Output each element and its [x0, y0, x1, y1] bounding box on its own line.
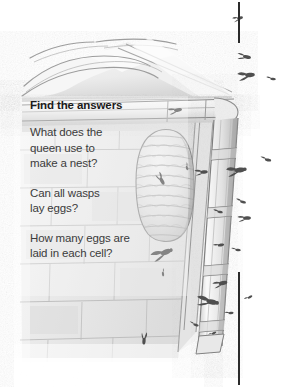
- question-2-line-2: lay eggs?: [30, 201, 180, 217]
- question-3-line-1: How many eggs are: [30, 231, 182, 247]
- top-margin-rule: [238, 2, 240, 43]
- panel-title: Find the answers: [30, 98, 180, 112]
- question-2-line-1: Can all wasps: [30, 186, 180, 202]
- question-3-line-2: laid in each cell?: [30, 246, 182, 262]
- roof-tiles: [22, 38, 236, 104]
- question-1: What does the queen use to make a nest?: [30, 125, 180, 172]
- question-1-line-3: make a nest?: [30, 156, 180, 172]
- find-the-answers-panel: Find the answers What does the queen use…: [30, 98, 180, 262]
- bottom-margin-rule: [238, 272, 240, 385]
- question-2: Can all wasps lay eggs?: [30, 186, 180, 217]
- book-page: Find the answers What does the queen use…: [0, 0, 281, 387]
- question-1-line-1: What does the: [30, 125, 180, 141]
- question-3: How many eggs are laid in each cell?: [30, 231, 182, 262]
- question-1-line-2: queen use to: [30, 141, 180, 157]
